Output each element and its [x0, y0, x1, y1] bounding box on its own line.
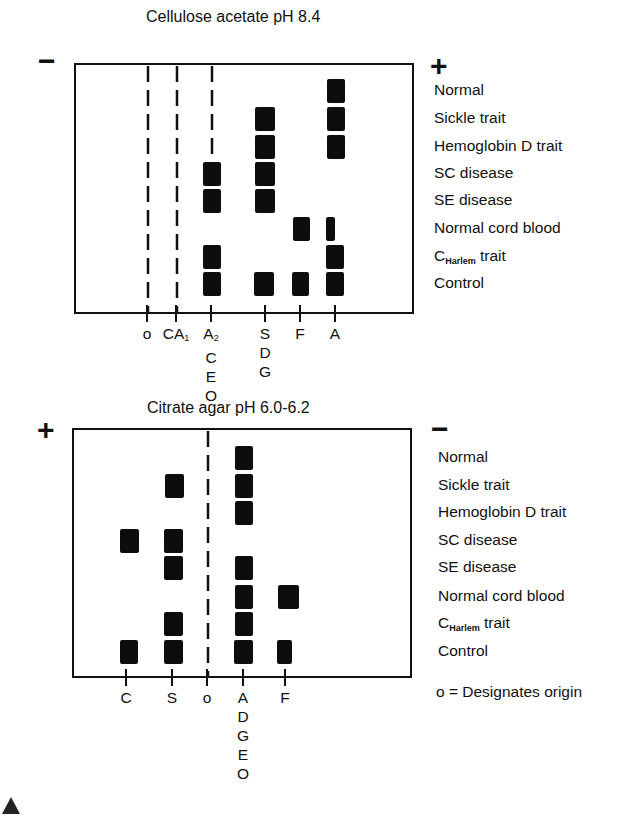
- top-row-label: Sickle trait: [434, 109, 506, 127]
- top-band: [203, 162, 221, 186]
- bottom-row-label: Control: [438, 642, 488, 660]
- top-tick-label: A2CEO: [196, 324, 226, 405]
- bottom-band: [278, 585, 299, 609]
- bottom-band: [235, 474, 253, 498]
- top-band: [327, 79, 345, 103]
- top-plus-icon: +: [430, 51, 448, 81]
- top-minus-icon: −: [38, 46, 56, 76]
- bottom-band: [120, 640, 138, 664]
- bottom-row-label: Sickle trait: [438, 476, 510, 494]
- top-row-label: Normal: [434, 81, 484, 99]
- bottom-row-label: CHarlem trait: [438, 614, 510, 633]
- top-tick-label: F: [285, 324, 315, 343]
- bottom-band: [235, 501, 253, 525]
- bottom-tick-label: ADGEO: [228, 688, 258, 783]
- bottom-band: [164, 640, 183, 664]
- top-band: [255, 189, 275, 213]
- top-band: [203, 189, 221, 213]
- bottom-band: [164, 612, 183, 636]
- top-tick-label: CA1: [161, 324, 191, 348]
- top-band: [326, 245, 344, 269]
- top-row-label: SE disease: [434, 191, 512, 209]
- top-band: [255, 162, 275, 186]
- bottom-band: [164, 529, 183, 553]
- bottom-band: [235, 612, 253, 636]
- bottom-plus-icon: +: [37, 415, 55, 445]
- top-band: [327, 135, 345, 159]
- origin-footnote: o = Designates origin: [436, 683, 582, 701]
- bottom-panel-title: Citrate agar pH 6.0-6.2: [147, 399, 310, 417]
- top-band: [255, 107, 275, 131]
- top-band: [203, 272, 221, 296]
- top-row-label: Normal cord blood: [434, 219, 561, 237]
- bottom-row-label: SC disease: [438, 531, 517, 549]
- top-tick-label: A: [320, 324, 350, 343]
- top-band: [327, 107, 345, 131]
- bottom-row-label: SE disease: [438, 558, 516, 576]
- bottom-band: [235, 556, 253, 580]
- bottom-row-label: Normal: [438, 448, 488, 466]
- bottom-band: [165, 474, 184, 498]
- top-band: [326, 217, 335, 241]
- bottom-row-label: Hemoglobin D trait: [438, 503, 566, 521]
- bottom-band: [164, 556, 183, 580]
- bottom-row-label: Normal cord blood: [438, 587, 565, 605]
- bottom-band: [235, 585, 253, 609]
- bottom-tick-label: F: [270, 688, 300, 707]
- top-band: [254, 272, 274, 296]
- top-row-label: Control: [434, 274, 484, 292]
- top-tick-label: o: [132, 324, 162, 343]
- electrophoresis-figure: [0, 0, 631, 825]
- top-gel-frame: [75, 64, 413, 313]
- top-row-label: Hemoglobin D trait: [434, 137, 562, 155]
- bottom-tick-label: S: [157, 688, 187, 707]
- top-tick-label: SDG: [250, 324, 280, 381]
- bottom-tick-label: o: [192, 688, 222, 707]
- top-band: [255, 135, 275, 159]
- bottom-band: [234, 640, 253, 664]
- top-band: [292, 272, 309, 296]
- top-panel-title: Cellulose acetate pH 8.4: [146, 8, 320, 26]
- top-band: [326, 272, 344, 296]
- triangle-marker-icon: [2, 797, 20, 814]
- top-band: [293, 217, 310, 241]
- top-band: [203, 245, 221, 269]
- bottom-tick-label: C: [111, 688, 141, 707]
- bottom-minus-icon: −: [431, 414, 449, 444]
- bottom-band: [235, 446, 253, 470]
- top-row-label: SC disease: [434, 164, 513, 182]
- bottom-band: [120, 529, 139, 553]
- top-row-label: CHarlem trait: [434, 247, 506, 266]
- bottom-band: [277, 640, 292, 664]
